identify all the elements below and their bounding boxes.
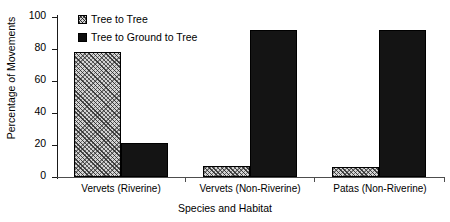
bar-tree-to-ground-to-tree-vervets-riverine bbox=[121, 143, 168, 177]
y-axis-title: Percentage of Movements bbox=[5, 0, 17, 158]
filled-square-icon bbox=[78, 33, 87, 42]
hatched-square-icon bbox=[78, 15, 87, 24]
bar-chart-figure: Percentage of Movements 0 20 40 60 80 10… bbox=[0, 0, 450, 222]
x-category-label-patas-non-riverine: Patas (Non-Riverine) bbox=[315, 183, 445, 195]
y-tick-mark bbox=[52, 177, 57, 178]
bar-tree-to-tree-vervets-non-riverine bbox=[203, 166, 250, 177]
bar-tree-to-ground-to-tree-patas-non-riverine bbox=[379, 30, 426, 177]
legend-item-tree-to-ground-to-tree: Tree to Ground to Tree bbox=[78, 29, 197, 45]
x-category-label-vervets-non-riverine: Vervets (Non-Riverine) bbox=[186, 183, 314, 195]
chart-legend: Tree to Tree Tree to Ground to Tree bbox=[78, 11, 197, 47]
bar-tree-to-tree-vervets-riverine bbox=[74, 52, 121, 177]
y-tick-label-80: 80 bbox=[35, 42, 46, 53]
x-axis-separator-2 bbox=[314, 177, 315, 182]
x-axis-title: Species and Habitat bbox=[0, 202, 450, 214]
y-tick-label-60: 60 bbox=[35, 74, 46, 85]
legend-label-tree-to-tree: Tree to Tree bbox=[91, 13, 148, 25]
legend-label-tree-to-ground-to-tree: Tree to Ground to Tree bbox=[91, 31, 197, 43]
x-category-label-vervets-riverine: Vervets (Riverine) bbox=[57, 183, 185, 195]
y-tick-label-100: 100 bbox=[29, 10, 46, 21]
y-tick-label-40: 40 bbox=[35, 106, 46, 117]
bar-tree-to-ground-to-tree-vervets-non-riverine bbox=[250, 30, 297, 177]
bar-tree-to-tree-patas-non-riverine bbox=[332, 167, 379, 177]
x-axis-separator-1 bbox=[185, 177, 186, 182]
legend-item-tree-to-tree: Tree to Tree bbox=[78, 11, 197, 27]
y-tick-label-0: 0 bbox=[40, 170, 46, 181]
x-axis-line bbox=[56, 177, 445, 178]
y-tick-label-20: 20 bbox=[35, 138, 46, 149]
x-axis-separator-3 bbox=[444, 177, 445, 182]
